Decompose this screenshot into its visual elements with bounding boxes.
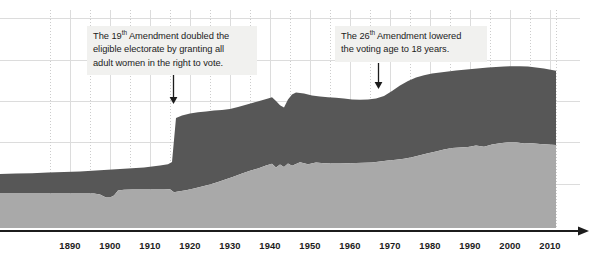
x-tick-label: 1950 — [299, 240, 320, 251]
annotation-19th-text-part2: Amendment doubled the — [127, 31, 229, 41]
annotation-26th-text-part2: Amendment lowered — [375, 31, 461, 41]
annotation-19th-text-part1: The 19 — [93, 31, 122, 41]
annotation-pointer-26th-icon — [375, 63, 383, 89]
annotation-26th-text-part1: The 26 — [341, 31, 370, 41]
x-tick-label: 1940 — [259, 240, 280, 251]
x-tick-label: 1920 — [179, 240, 200, 251]
x-tick-label: 1930 — [219, 240, 240, 251]
stacked-area-chart: The 19th Amendment doubled theeligible e… — [0, 0, 616, 271]
x-tick-label: 1900 — [99, 240, 120, 251]
x-tick-label: 1970 — [379, 240, 400, 251]
annotation-19th-amendment: The 19th Amendment doubled theeligible e… — [87, 26, 257, 75]
annotation-26th-amendment: The 26th Amendment loweredthe voting age… — [335, 26, 487, 62]
x-tick-label: 1890 — [59, 240, 80, 251]
annotation-26th-line2: the voting age to 18 years. — [341, 44, 449, 54]
annotation-19th-line2: eligible electorate by granting all — [93, 44, 224, 54]
annotation-19th-line3: adult women in the right to vote. — [93, 58, 223, 68]
x-tick-label: 2010 — [539, 240, 560, 251]
x-tick-label: 1990 — [459, 240, 480, 251]
x-tick-label: 1980 — [419, 240, 440, 251]
x-tick-label: 1910 — [139, 240, 160, 251]
x-tick-label: 1960 — [339, 240, 360, 251]
x-tick-label: 2000 — [499, 240, 520, 251]
